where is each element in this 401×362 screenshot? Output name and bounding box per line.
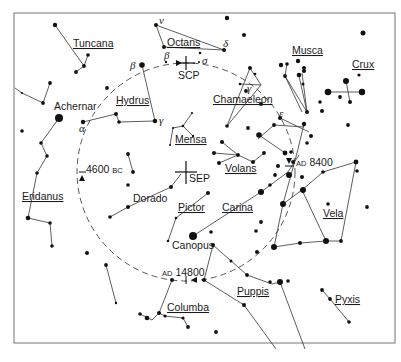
label-canopus: Canopus	[172, 239, 214, 251]
label-carina: Carina	[222, 201, 253, 213]
label-scp: SCP	[178, 69, 200, 81]
label-pictor: Pictor	[178, 201, 205, 213]
label-sep: SEP	[189, 172, 210, 184]
greek-nu-octans: ν	[159, 14, 164, 26]
label-tuncana: Tuncana	[73, 37, 114, 49]
greek-beta-hydrus: β	[129, 59, 136, 71]
label-mensa: Mensa	[175, 133, 207, 145]
label-achernar: Achernar	[54, 100, 97, 112]
label-hydrus: Hydrus	[116, 94, 149, 106]
star-chart: Tuncana Octans Musca Crux Hydrus Chamael…	[0, 0, 401, 362]
label-columba: Columba	[167, 301, 209, 313]
greek-gamma-chamaeleon: γ	[247, 82, 252, 94]
label-crux: Crux	[352, 58, 375, 70]
label-eridanus: Eridanus	[22, 190, 63, 202]
label-chamaeleon: Chamaeleon	[213, 93, 273, 105]
greek-delta-octans: δ	[223, 37, 229, 49]
label-volans: Volans	[225, 162, 257, 174]
label-vela: Vela	[323, 207, 344, 219]
label-musca: Musca	[292, 44, 323, 56]
greek-gamma-hydrus: γ	[159, 114, 164, 126]
greek-alpha-hydrus: α	[79, 122, 85, 134]
greek-epsilon-carina: ε	[279, 107, 284, 119]
label-puppis: Puppis	[237, 285, 269, 297]
greek-sigma-octans: σ	[202, 54, 208, 66]
label-octans: Octans	[167, 36, 200, 48]
label-pyxis: Pyxis	[335, 293, 360, 305]
greek-beta-octans: β	[163, 49, 170, 61]
label-dorado: Dorado	[133, 192, 168, 204]
